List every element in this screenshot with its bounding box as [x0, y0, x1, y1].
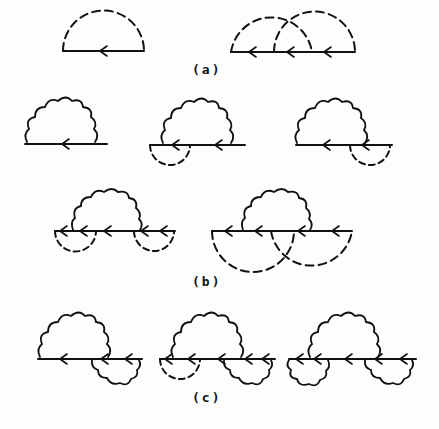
diagram-c1 — [38, 313, 142, 385]
diagram-c2 — [160, 313, 275, 385]
diagram-b5 — [212, 189, 352, 272]
panel-label-a: (a) — [192, 62, 221, 77]
diagram-b2 — [150, 99, 245, 166]
diagram-c3 — [287, 313, 416, 386]
diagram-b1 — [25, 98, 107, 150]
diagram-b3 — [295, 99, 392, 166]
panel-label-b: (b) — [192, 274, 221, 289]
panel-label-c: (c) — [192, 390, 221, 405]
feynman-diagram-figure: (a) (b) (c) — [0, 0, 439, 429]
diagram-a1 — [63, 10, 144, 56]
diagram-b4 — [55, 189, 175, 251]
diagram-a2 — [231, 11, 355, 57]
